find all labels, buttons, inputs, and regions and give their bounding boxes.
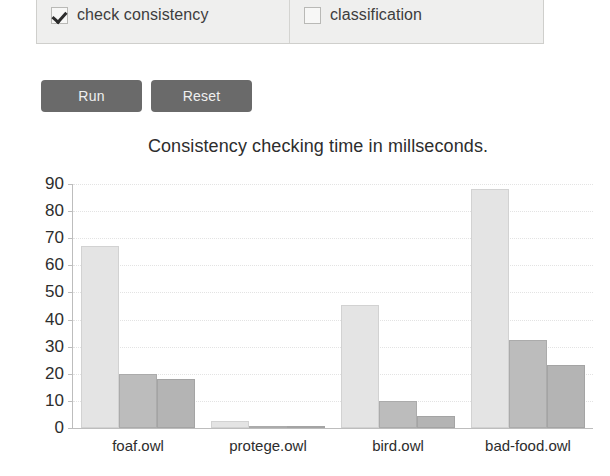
bar-group: foaf.owl — [73, 184, 203, 428]
y-axis-tick — [68, 428, 73, 429]
y-axis-tick-label: 30 — [45, 337, 64, 357]
y-axis-tick-label: 60 — [45, 255, 64, 275]
x-axis-tick-label: protege.owl — [229, 437, 307, 454]
options-panel: check consistency classification — [36, 0, 544, 44]
plot-area: 0102030405060708090foaf.owlprotege.owlbi… — [72, 184, 593, 429]
bar — [379, 401, 417, 428]
y-axis-tick-label: 50 — [45, 282, 64, 302]
x-axis-tick-label: foaf.owl — [112, 437, 164, 454]
bar — [509, 340, 547, 428]
bar-chart: Consistency checking time in millseconds… — [0, 136, 610, 476]
y-axis-tick-label: 20 — [45, 364, 64, 384]
option-label-classification: classification — [330, 6, 422, 24]
plot-wrapper: 0102030405060708090foaf.owlprotege.owlbi… — [0, 178, 610, 468]
bar — [119, 374, 157, 428]
bar — [547, 365, 585, 428]
bar — [471, 189, 509, 428]
y-axis-tick-label: 80 — [45, 201, 64, 221]
y-axis-tick-label: 70 — [45, 228, 64, 248]
bar — [211, 421, 249, 428]
y-axis-tick-label: 40 — [45, 310, 64, 330]
y-axis-tick-label: 10 — [45, 391, 64, 411]
bar — [341, 305, 379, 428]
bar — [249, 426, 287, 428]
button-bar: Run Reset — [41, 80, 252, 112]
checkmark-icon[interactable] — [51, 7, 68, 24]
run-button[interactable]: Run — [41, 80, 142, 112]
y-axis-tick-label: 0 — [55, 418, 64, 438]
bar — [417, 416, 455, 428]
bar — [81, 246, 119, 428]
x-axis-tick-label: bird.owl — [372, 437, 424, 454]
chart-title: Consistency checking time in millseconds… — [0, 136, 610, 157]
y-axis-tick-label: 90 — [45, 174, 64, 194]
bar-group: bad-food.owl — [463, 184, 593, 428]
bar-group: bird.owl — [333, 184, 463, 428]
bar — [287, 426, 325, 428]
empty-checkbox-icon[interactable] — [304, 7, 321, 24]
option-check-consistency[interactable]: check consistency — [37, 0, 290, 43]
x-axis-tick-label: bad-food.owl — [485, 437, 571, 454]
option-label-check-consistency: check consistency — [77, 6, 209, 24]
bar-group: protege.owl — [203, 184, 333, 428]
reset-button[interactable]: Reset — [151, 80, 252, 112]
bar — [157, 379, 195, 428]
option-classification[interactable]: classification — [290, 0, 543, 43]
